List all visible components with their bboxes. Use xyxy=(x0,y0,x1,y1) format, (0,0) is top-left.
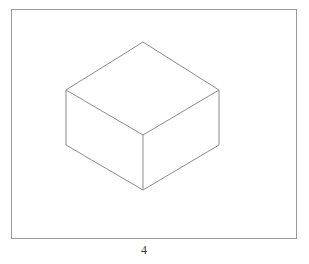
figure-page: 4 xyxy=(0,0,309,264)
figure-caption-number: 4 xyxy=(0,243,288,257)
isometric-cuboid-drawing xyxy=(0,0,309,264)
